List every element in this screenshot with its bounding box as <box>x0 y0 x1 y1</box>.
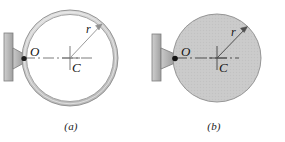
label-radius-a: r <box>86 22 91 37</box>
label-center-a: C <box>72 60 81 76</box>
caption-a: (a) <box>0 120 142 132</box>
pivot-point-b <box>172 56 178 62</box>
caption-b: (b) <box>143 120 285 132</box>
label-pivot-a: O <box>30 44 39 60</box>
wall-support-b <box>152 34 175 81</box>
figure-panel-a: O C r (a) <box>0 0 142 142</box>
label-radius-b: r <box>231 25 236 40</box>
wall-support-a <box>4 33 24 81</box>
label-pivot-b: O <box>181 44 190 60</box>
figure-panel-b: O C r (b) <box>143 0 285 142</box>
figure-page: O C r (a) <box>0 0 285 142</box>
label-center-b: C <box>219 60 228 76</box>
pivot-point-a <box>21 56 26 61</box>
